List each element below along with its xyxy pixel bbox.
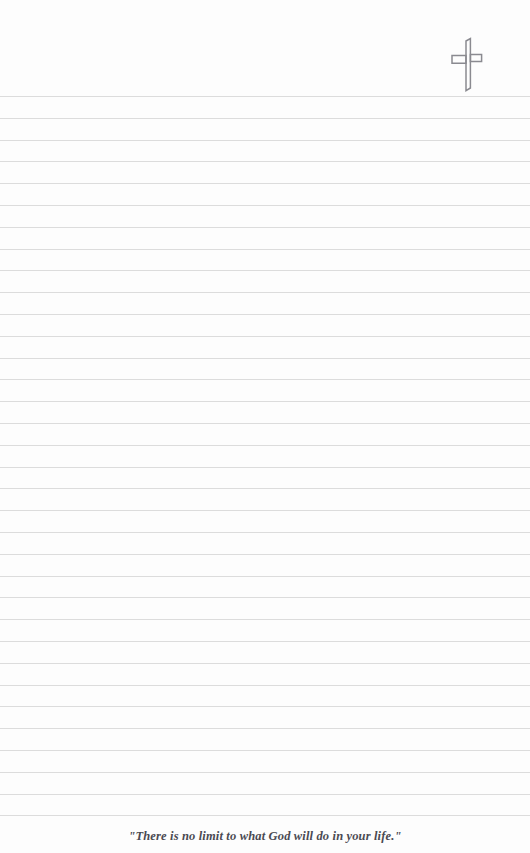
rule-line [0, 576, 530, 577]
rule-line [0, 314, 530, 315]
footer-quote-area: "There is no limit to what God will do i… [0, 820, 530, 853]
rule-line [0, 772, 530, 773]
rule-line [0, 358, 530, 359]
rule-line [0, 379, 530, 380]
rule-line [0, 249, 530, 250]
inspirational-quote: "There is no limit to what God will do i… [128, 829, 401, 844]
rule-line [0, 445, 530, 446]
rule-line [0, 663, 530, 664]
rule-line [0, 140, 530, 141]
rule-line [0, 227, 530, 228]
rule-line [0, 401, 530, 402]
rule-line [0, 750, 530, 751]
journal-page: "There is no limit to what God will do i… [0, 0, 530, 853]
rule-line [0, 336, 530, 337]
rule-line [0, 96, 530, 97]
rule-line [0, 270, 530, 271]
rule-line [0, 815, 530, 816]
rule-line [0, 423, 530, 424]
rule-line [0, 467, 530, 468]
rule-line [0, 706, 530, 707]
rule-line [0, 728, 530, 729]
rule-line [0, 794, 530, 795]
rule-line [0, 292, 530, 293]
rule-line [0, 641, 530, 642]
rule-line [0, 532, 530, 533]
rule-line [0, 619, 530, 620]
rule-line [0, 685, 530, 686]
rule-line [0, 118, 530, 119]
rule-line [0, 510, 530, 511]
ruled-writing-area [0, 0, 530, 820]
rule-line [0, 488, 530, 489]
rule-line [0, 554, 530, 555]
rule-line [0, 183, 530, 184]
rule-line [0, 161, 530, 162]
rule-line [0, 205, 530, 206]
rule-line [0, 597, 530, 598]
